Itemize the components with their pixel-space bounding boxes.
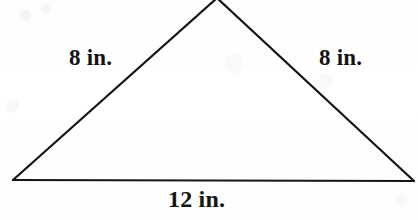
figure-canvas: 8 in. 8 in. 12 in. [0,0,418,220]
triangle-left-side-line [13,0,217,180]
left-side-length-label: 8 in. [69,46,112,69]
triangle-right-side-line [217,0,414,181]
triangle-base-line [13,180,414,181]
right-side-length-label: 8 in. [319,46,362,69]
triangle-outline [13,0,414,181]
base-length-label: 12 in. [168,187,225,211]
